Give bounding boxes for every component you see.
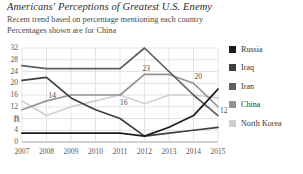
legend-label: Iraq bbox=[241, 63, 254, 72]
y-tick-label: 0 bbox=[2, 138, 18, 146]
y-tick-label: 12 bbox=[2, 103, 18, 111]
data-label: 23 bbox=[143, 65, 150, 72]
legend-label: Iran bbox=[241, 82, 254, 91]
data-label: 16 bbox=[120, 99, 127, 106]
legend-item[interactable]: Iraq bbox=[229, 59, 282, 78]
y-tick-label: 24 bbox=[2, 68, 18, 76]
y-tick-label: 20 bbox=[2, 79, 18, 87]
legend-label: Russia bbox=[241, 45, 263, 54]
y-tick-label: 4 bbox=[2, 126, 18, 134]
legend-swatch-icon bbox=[229, 120, 236, 127]
legend-swatch-icon bbox=[229, 83, 236, 90]
legend-item[interactable]: Russia bbox=[229, 40, 282, 59]
legend-item[interactable]: China bbox=[229, 96, 282, 115]
data-label: 14 bbox=[49, 92, 56, 99]
y-tick-label: 32 bbox=[2, 44, 18, 52]
data-label: 11 bbox=[13, 116, 20, 123]
y-tick-label: 28 bbox=[2, 56, 18, 64]
data-label: 12 bbox=[220, 107, 227, 114]
x-tick-label: 2010 bbox=[83, 148, 109, 155]
x-tick-label: 2014 bbox=[181, 148, 207, 155]
legend-item[interactable]: North Korea bbox=[229, 114, 282, 133]
chart-container: Americans' Perceptions of Greatest U.S. … bbox=[0, 0, 303, 174]
x-tick-label: 2015 bbox=[205, 148, 231, 155]
legend-swatch-icon bbox=[229, 46, 236, 53]
legend-item[interactable]: Iran bbox=[229, 77, 282, 96]
data-label: 20 bbox=[195, 73, 202, 80]
x-tick-label: 2007 bbox=[9, 148, 35, 155]
legend-label: China bbox=[241, 100, 260, 109]
legend-swatch-icon bbox=[229, 101, 236, 108]
x-tick-label: 2012 bbox=[132, 148, 158, 155]
legend-label: North Korea bbox=[241, 119, 282, 128]
x-tick-label: 2011 bbox=[107, 148, 133, 155]
chart-legend: RussiaIraqIranChinaNorth Korea bbox=[229, 40, 282, 133]
legend-swatch-icon bbox=[229, 64, 236, 71]
x-tick-label: 2009 bbox=[58, 148, 84, 155]
x-tick-label: 2008 bbox=[34, 148, 60, 155]
x-tick-label: 2013 bbox=[156, 148, 182, 155]
y-tick-label: 16 bbox=[2, 91, 18, 99]
